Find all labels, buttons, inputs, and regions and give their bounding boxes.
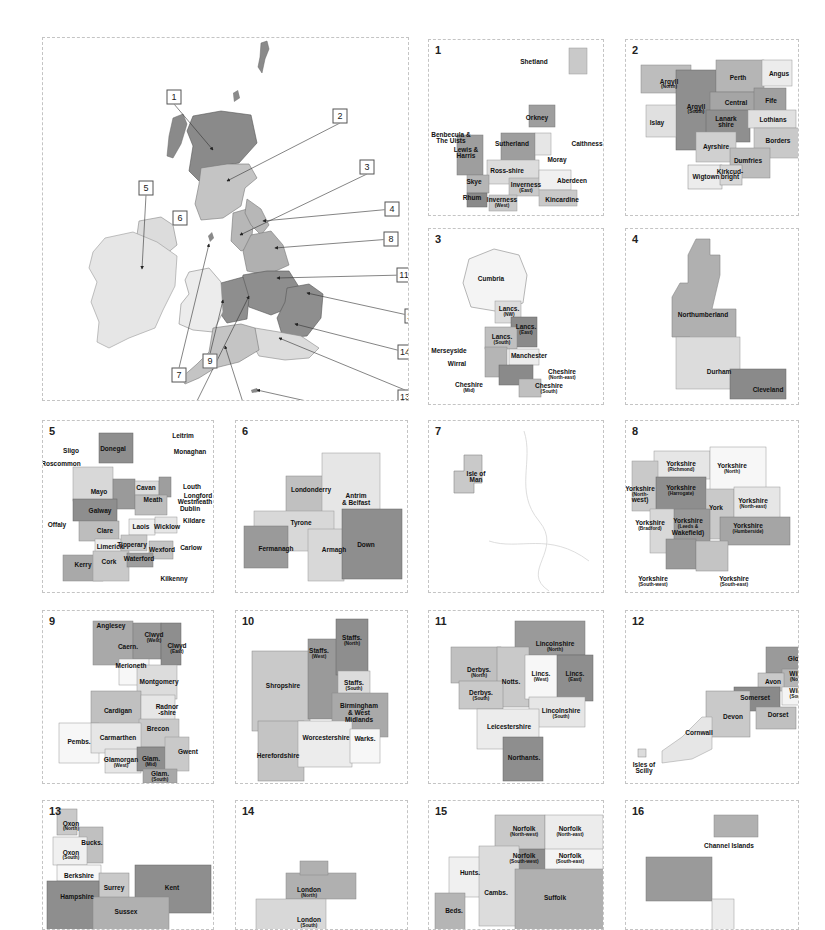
panel-12-map [626, 611, 799, 784]
region-label: Montgomery [140, 679, 179, 686]
panel-number: 6 [242, 425, 248, 437]
region-label: Surrey [104, 885, 125, 892]
panel-14-map [236, 801, 408, 930]
region-label: Angus [769, 71, 789, 78]
region-label: Wakefield) [672, 530, 704, 537]
region-label: (North-east) [556, 832, 583, 837]
region-label: Warks. [354, 736, 375, 743]
region-label: & Belfast [342, 500, 370, 507]
region-label: (South) [494, 340, 511, 345]
region-label: (North) [661, 84, 677, 89]
region-callout-13: 13 [398, 390, 410, 402]
region-label: Norfolk [559, 826, 582, 833]
region-label: shire [718, 122, 734, 129]
region-callout-3: 3 [360, 160, 375, 175]
region-label: Lancs. [516, 324, 537, 331]
region-label: Staffs. [309, 648, 329, 655]
region-label: Carmarthen [100, 735, 136, 742]
region-label: Durham [707, 369, 732, 376]
region-label: Clwyd [167, 643, 186, 650]
panel-number: 14 [242, 805, 254, 817]
region-label: The Uists [436, 138, 465, 145]
region-label: Scilly [636, 768, 653, 775]
region-label: Aberdeen [557, 178, 587, 185]
region-label: Wexford [149, 547, 175, 554]
region-label: (South) [63, 855, 80, 860]
region-label: Glam. [142, 756, 160, 763]
region-label: Skye [466, 179, 481, 186]
region-label: (North) [547, 647, 563, 652]
region-label: Louth [183, 484, 201, 491]
region-label: Shetland [520, 59, 547, 66]
panel-10: 10Staffs.(North)Staffs.(West)ShropshireS… [235, 610, 408, 784]
region-label: Galway [89, 508, 112, 515]
panel-number: 15 [435, 805, 447, 817]
region-label: Lincolnshire [542, 708, 581, 715]
region-label: -shire [158, 710, 176, 717]
region-label: Moray [547, 157, 566, 164]
region-label: Tipperary [117, 542, 147, 549]
region-label: Yorkshire [738, 498, 768, 505]
region-label: Midlands [345, 717, 373, 724]
region-label: (South-west) [638, 582, 667, 587]
panel-number: 3 [435, 233, 441, 245]
region-label: Fermanagh [258, 546, 293, 553]
region-label: (West) [147, 638, 162, 643]
region-label: (Humberside) [733, 529, 764, 534]
region-label: Roscommon [42, 461, 81, 468]
region-label: Channel Islands [704, 843, 754, 850]
region-label: Rhum [463, 195, 481, 202]
panel-16-map [626, 801, 799, 930]
region-callout-1: 1 [167, 90, 182, 105]
region-label: (South) [541, 389, 558, 394]
region-label: Central [725, 100, 747, 107]
region-label: Cheshire [548, 369, 576, 376]
panel-9: 9AngleseyClwyd(West)Caern.Clwyd(East)Mer… [42, 610, 214, 784]
region-label: Merioneth [115, 663, 146, 670]
region-label: Donegal [100, 446, 126, 453]
region-label: Yorkshire [673, 518, 703, 525]
region-label: Meath [144, 497, 163, 504]
region-label: Inverness [487, 197, 517, 204]
region-label: Waterford [124, 556, 154, 563]
region-label: Beds. [445, 908, 463, 915]
panel-3-map [429, 229, 604, 405]
region-label: Anglesey [97, 623, 126, 630]
region-label: (Richmond) [668, 467, 695, 472]
panel-2-map [626, 40, 799, 216]
region-callout-15: 15 [405, 309, 410, 324]
region-label: Kerry [75, 562, 92, 569]
region-label: Wigtown [692, 174, 719, 181]
region-label: Yorkshire [638, 576, 668, 583]
panel-15: 15Norfolk(North-west)Norfolk(North-east)… [428, 800, 604, 930]
region-label: Hampshire [60, 894, 94, 901]
region-label: Wirral [448, 361, 466, 368]
region-label: Kent [165, 885, 179, 892]
region-label: Caithness [571, 141, 602, 148]
region-label: Leicestershire [487, 724, 531, 731]
region-label: (West) [114, 763, 129, 768]
region-label: Manchester [511, 353, 547, 360]
region-label: Brecon [147, 726, 169, 733]
region-label: (South) [152, 777, 169, 782]
panel-number: 16 [632, 805, 644, 817]
panel-1-map [429, 40, 604, 216]
panel-1: 1ShetlandOrkneyCaithnessBenbecula &The U… [428, 39, 604, 216]
region-label: (East) [568, 677, 581, 682]
panel-number: 4 [632, 233, 638, 245]
region-label: Dublin [180, 506, 200, 513]
region-label: Derbys. [469, 690, 493, 697]
region-label: Yorkshire [666, 485, 696, 492]
region-label: Lothians [759, 117, 786, 124]
region-label: Perth [730, 75, 747, 82]
region-label: Cheshire [535, 383, 563, 390]
region-label: (South) [553, 714, 570, 719]
region-label: Cork [102, 559, 117, 566]
region-label: Suffolk [544, 895, 566, 902]
region-label: Hunts. [460, 870, 480, 877]
region-label: Shropshire [266, 683, 300, 690]
region-label: Lincs. [532, 671, 551, 678]
region-label: Sligo [63, 448, 79, 455]
region-label: (West) [312, 654, 327, 659]
region-label: Mayo [91, 489, 108, 496]
